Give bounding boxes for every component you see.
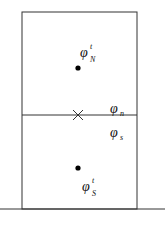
- south-cell-center-dot: [75, 165, 80, 170]
- label-phi-t-N: φ t N: [80, 44, 110, 68]
- label-phi-t-S: φ t S: [82, 178, 112, 202]
- label-phi-n: φ n: [110, 100, 130, 118]
- label-phi-s: φ s: [110, 124, 130, 142]
